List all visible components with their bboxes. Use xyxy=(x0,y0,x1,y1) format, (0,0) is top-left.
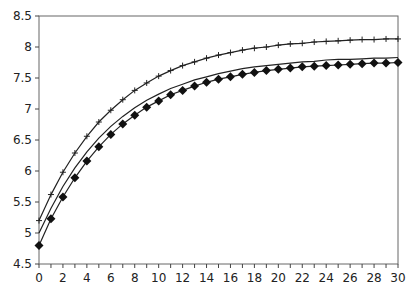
diamond-marker xyxy=(394,58,403,67)
plus-marker xyxy=(144,80,150,86)
plus-marker xyxy=(48,192,54,198)
plus-marker xyxy=(168,68,174,74)
plus-marker xyxy=(311,39,317,45)
diamond-marker xyxy=(322,61,331,70)
x-tick-label: 18 xyxy=(247,271,262,285)
diamond-marker xyxy=(286,64,295,73)
line-chart: 4.555.566.577.588.5024681012141618202224… xyxy=(0,0,413,299)
plus-marker xyxy=(347,37,353,43)
plus-marker xyxy=(383,36,389,42)
y-tick-label: 6.5 xyxy=(13,133,32,147)
diamond-marker xyxy=(70,173,79,182)
diamond-marker xyxy=(370,59,379,68)
plus-marker xyxy=(156,73,162,79)
series-1 xyxy=(39,58,398,234)
y-tick-label: 8.5 xyxy=(13,9,32,23)
x-tick-label: 24 xyxy=(319,271,334,285)
x-tick-label: 20 xyxy=(271,271,286,285)
plus-marker xyxy=(359,37,365,43)
plus-marker xyxy=(299,40,305,46)
series-group xyxy=(35,36,403,250)
plus-marker xyxy=(275,42,281,48)
x-tick-label: 30 xyxy=(390,271,405,285)
axes: 4.555.566.577.588.5024681012141618202224… xyxy=(13,9,406,285)
x-tick-label: 16 xyxy=(223,271,238,285)
plus-marker xyxy=(335,38,341,44)
x-tick-label: 26 xyxy=(342,271,357,285)
diamond-marker xyxy=(250,68,259,77)
plus-marker xyxy=(180,63,186,69)
diamond-marker xyxy=(346,60,355,69)
series-2 xyxy=(35,58,403,250)
plus-marker xyxy=(239,47,245,53)
plus-marker xyxy=(204,55,210,61)
x-tick-label: 0 xyxy=(35,271,43,285)
plus-marker xyxy=(395,36,401,42)
diamond-marker xyxy=(238,70,247,79)
x-tick-label: 4 xyxy=(83,271,91,285)
diamond-marker xyxy=(154,96,163,105)
x-tick-label: 28 xyxy=(366,271,381,285)
diamond-marker xyxy=(202,78,211,87)
y-tick-label: 8 xyxy=(24,40,32,54)
diamond-marker xyxy=(166,90,175,99)
diamond-marker xyxy=(178,86,187,95)
x-tick-label: 2 xyxy=(59,271,67,285)
x-tick-label: 10 xyxy=(151,271,166,285)
plus-marker xyxy=(323,38,329,44)
diamond-marker xyxy=(142,103,151,112)
x-tick-label: 12 xyxy=(175,271,190,285)
diamond-marker xyxy=(334,60,343,69)
x-tick-label: 22 xyxy=(295,271,310,285)
diamond-marker xyxy=(262,66,271,75)
plus-marker xyxy=(251,45,257,51)
diamond-marker xyxy=(298,62,307,71)
plus-marker xyxy=(287,41,293,47)
plus-marker xyxy=(192,59,198,65)
diamond-marker xyxy=(382,59,391,68)
plus-marker xyxy=(60,169,66,175)
diamond-marker xyxy=(130,111,139,120)
series-line xyxy=(39,39,398,221)
diamond-marker xyxy=(310,62,319,71)
diamond-marker xyxy=(274,65,283,74)
diamond-marker xyxy=(214,75,223,84)
series-line xyxy=(39,58,398,234)
plus-marker xyxy=(263,44,269,50)
y-tick-label: 4.5 xyxy=(13,257,32,271)
x-tick-label: 8 xyxy=(131,271,139,285)
plus-marker xyxy=(371,37,377,43)
diamond-marker xyxy=(190,82,199,91)
diamond-marker xyxy=(358,59,367,68)
x-tick-label: 6 xyxy=(107,271,115,285)
y-tick-label: 5 xyxy=(24,226,32,240)
y-tick-label: 7 xyxy=(24,102,32,116)
y-tick-label: 6 xyxy=(24,164,32,178)
plus-marker xyxy=(216,52,222,58)
diamond-marker xyxy=(35,241,44,250)
y-tick-label: 7.5 xyxy=(13,71,32,85)
x-tick-label: 14 xyxy=(199,271,214,285)
plus-marker xyxy=(36,218,42,224)
diamond-marker xyxy=(58,193,67,202)
plus-marker xyxy=(227,50,233,56)
y-tick-label: 5.5 xyxy=(13,195,32,209)
diamond-marker xyxy=(226,72,235,81)
series-line xyxy=(39,63,398,246)
